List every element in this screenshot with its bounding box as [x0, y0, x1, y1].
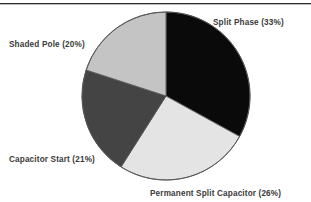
pie-label-split-phase: Split Phase (33%)	[213, 18, 284, 28]
pie-label-shaded-pole: Shaded Pole (20%)	[9, 40, 85, 50]
pie-chart-canvas	[0, 0, 311, 202]
pie-label-permanent-split-capacitor: Permanent Split Capacitor (26%)	[150, 189, 281, 199]
pie-label-capacitor-start: Capacitor Start (21%)	[9, 155, 95, 165]
pie-slice-group	[82, 12, 250, 180]
pie-chart-figure: Split Phase (33%) Permanent Split Capaci…	[0, 0, 311, 202]
